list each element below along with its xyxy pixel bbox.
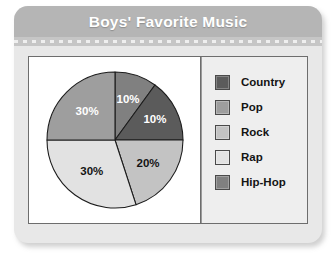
pie-slice-label-hip-hop: 10% [116,93,139,105]
page-title: Boys' Favorite Music [89,13,247,31]
legend-swatch-country [215,75,230,90]
pie-slice-label-pop: 30% [75,105,98,117]
legend-label: Hip-Hop [241,176,286,188]
legend-label: Rap [241,151,263,163]
chart-body: 10%10%20%30%30% CountryPopRockRapHip-Hop [28,56,308,224]
legend-item-rap: Rap [215,148,301,166]
legend-swatch-rock [215,125,230,140]
chart-card: Boys' Favorite Music 10%10%20%30%30% Cou… [14,6,322,243]
chart-title-band: Boys' Favorite Music [14,6,322,37]
pie-slices [47,72,183,208]
legend-label: Pop [241,101,263,113]
legend-item-country: Country [215,73,301,91]
legend-swatch-hip-hop [215,175,230,190]
legend-item-hip-hop: Hip-Hop [215,173,301,191]
pie-chart: 10%10%20%30%30% [44,69,186,211]
dash-row [14,40,322,44]
legend-item-pop: Pop [215,98,301,116]
legend-label: Rock [241,126,269,138]
legend-swatch-rap [215,150,230,165]
legend-list: CountryPopRockRapHip-Hop [215,73,301,191]
pie-chart-panel: 10%10%20%30%30% [29,57,201,223]
dashed-divider [14,37,322,46]
legend-swatch-pop [215,100,230,115]
pie-slice-label-country: 10% [143,113,166,125]
legend-item-rock: Rock [215,123,301,141]
pie-slice-label-rock: 20% [136,157,159,169]
pie-slice-label-rap: 30% [80,165,103,177]
legend-label: Country [241,76,285,88]
legend-panel: CountryPopRockRapHip-Hop [201,57,307,223]
